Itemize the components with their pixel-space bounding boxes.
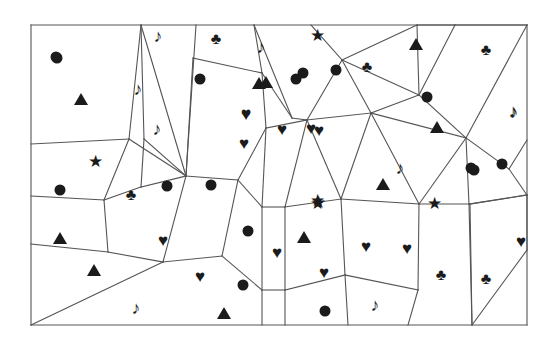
tessellation-figure: ♪♪♪♣♪★♣♣♪♥♥♥♥★♪♣★★★♥♥♥♥♥♥♥♣♣♪♪♥★♪♥ bbox=[0, 0, 554, 345]
tessellation-svg bbox=[0, 0, 554, 345]
